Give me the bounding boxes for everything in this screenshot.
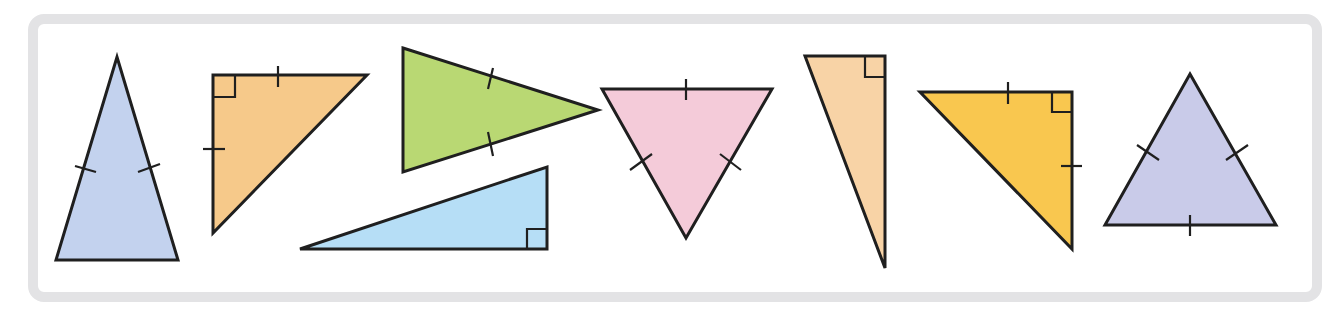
triangle-shape [403,48,598,172]
blue-isosceles-triangle [56,57,178,260]
triangle-shape [56,57,178,260]
triangle-shape [213,75,367,233]
triangle-shape [920,92,1072,249]
triangle-shape [602,89,772,238]
triangles-canvas [0,0,1340,315]
triangle-shape [300,167,547,249]
orange-right-isosceles-triangle [203,66,367,233]
green-isosceles-triangle [403,48,598,172]
triangle-shape [1105,74,1276,225]
peach-right-triangle [805,56,885,268]
pink-equilateral-triangle [602,79,772,238]
lavender-equilateral-triangle [1105,74,1276,236]
triangle-shape [805,56,885,268]
yellow-right-isosceles-triangle [920,82,1082,249]
light-blue-right-triangle [300,167,547,249]
